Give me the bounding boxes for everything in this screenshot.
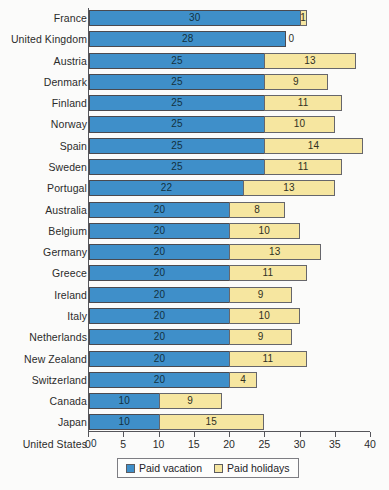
bar-stack: 209 — [89, 287, 292, 303]
bar-value-paid-vacation: 20 — [154, 290, 166, 300]
bar-segment-paid-holidays: 9 — [229, 287, 292, 303]
category-label: Belgium — [48, 225, 87, 236]
bar-segment-paid-holidays: 14 — [264, 138, 363, 154]
bar-row: Netherlands209 — [0, 329, 389, 345]
legend-swatch-paid-vacation-icon — [126, 464, 135, 473]
bar-segment-paid-holidays: 10 — [229, 223, 300, 239]
bar-row: Finland2511 — [0, 95, 389, 111]
bar-stack: 2213 — [89, 180, 335, 196]
category-label: Switzerland — [32, 374, 87, 385]
bar-segment-paid-vacation: 20 — [89, 372, 230, 388]
bar-value-paid-vacation: 25 — [171, 119, 183, 129]
bar-value-paid-holidays: 9 — [258, 332, 264, 342]
bar-segment-paid-vacation: 20 — [89, 223, 230, 239]
bar-stack: 208 — [89, 202, 285, 218]
bar-stack: 2511 — [89, 95, 342, 111]
bar-row: Ireland209 — [0, 287, 389, 303]
bar-value-paid-vacation: 20 — [154, 205, 166, 215]
bar-segment-paid-vacation: 20 — [89, 244, 230, 260]
bar-value-paid-vacation: 25 — [171, 141, 183, 151]
x-tick-label: 10 — [153, 438, 165, 450]
bar-segment-paid-vacation: 20 — [89, 351, 230, 367]
bar-segment-paid-vacation: 20 — [89, 308, 230, 324]
x-tick-mark — [300, 432, 301, 437]
bar-row: Spain2514 — [0, 138, 389, 154]
bar-value-paid-vacation: 30 — [189, 13, 201, 23]
bar-value-paid-vacation: 25 — [171, 56, 183, 66]
bar-segment-paid-holidays: 4 — [229, 372, 257, 388]
bar-value-paid-vacation: 20 — [154, 268, 166, 278]
bar-value-paid-holidays: 9 — [293, 77, 299, 87]
bar-segment-paid-vacation: 20 — [89, 287, 230, 303]
bar-value-paid-holidays: 11 — [298, 98, 309, 108]
bar-value-paid-holidays: 13 — [283, 183, 295, 193]
bar-row: Germany2013 — [0, 244, 389, 260]
bar-value-paid-vacation: 28 — [182, 34, 194, 44]
bar-value-paid-vacation: 10 — [118, 417, 130, 427]
bar-segment-paid-holidays: 11 — [229, 351, 307, 367]
legend-entry: Paid vacation — [126, 463, 202, 474]
bar-segment-paid-holidays: 11 — [264, 95, 342, 111]
bar-segment-paid-vacation: 20 — [89, 329, 230, 345]
bar-stack: 2013 — [89, 244, 321, 260]
bar-segment-paid-holidays: 8 — [229, 202, 285, 218]
category-label: Denmark — [44, 76, 87, 87]
bar-row: Portugal2213 — [0, 180, 389, 196]
bar-row: Austria2513 — [0, 53, 389, 69]
bar-row: Japan1015 — [0, 414, 389, 430]
category-label: Finland — [52, 98, 87, 109]
stacked-bar-chart: France301United Kingdom280Austria2513Den… — [0, 0, 389, 490]
category-label: Austria — [54, 55, 87, 66]
x-tick-label: 5 — [120, 438, 126, 450]
chart-legend: Paid vacationPaid holidays — [117, 458, 299, 478]
bar-value-paid-holidays: 14 — [308, 141, 320, 151]
category-label: Germany — [43, 247, 87, 258]
bar-segment-paid-vacation: 10 — [89, 393, 160, 409]
bar-row: Belgium2010 — [0, 223, 389, 239]
x-tick-mark — [123, 432, 124, 437]
bar-segment-paid-holidays: 9 — [264, 74, 327, 90]
bar-segment-paid-vacation: 28 — [89, 31, 286, 47]
bar-row: United Kingdom280 — [0, 31, 389, 47]
x-tick-label: 35 — [329, 438, 341, 450]
bar-segment-paid-holidays: 13 — [229, 244, 321, 260]
bar-row: Italy2010 — [0, 308, 389, 324]
category-label: Greece — [52, 268, 87, 279]
bar-segment-paid-holidays: 1 — [300, 10, 307, 26]
plot-area: France301United Kingdom280Austria2513Den… — [0, 0, 389, 432]
legend-label: Paid vacation — [139, 463, 202, 474]
bar-value-paid-holidays: 10 — [258, 311, 270, 321]
bar-rows: France301United Kingdom280Austria2513Den… — [0, 10, 389, 457]
bar-segment-paid-vacation: 25 — [89, 95, 265, 111]
bar-value-paid-vacation: 10 — [118, 396, 130, 406]
x-tick-label: 15 — [188, 438, 200, 450]
bar-segment-paid-holidays: 9 — [159, 393, 222, 409]
bar-segment-paid-holidays: 13 — [243, 180, 335, 196]
x-axis-ticks: 0510152025303540 — [0, 432, 389, 454]
legend-entry: Paid holidays — [214, 463, 289, 474]
bar-row: Norway2510 — [0, 116, 389, 132]
bar-value-paid-vacation: 22 — [161, 183, 173, 193]
bar-row: New Zealand2011 — [0, 351, 389, 367]
bar-value-paid-vacation: 25 — [171, 162, 183, 172]
x-tick-label: 40 — [364, 438, 376, 450]
bar-row: Canada109 — [0, 393, 389, 409]
bar-segment-paid-vacation: 25 — [89, 74, 265, 90]
bar-row: Switzerland204 — [0, 372, 389, 388]
bar-value-paid-vacation: 20 — [154, 247, 166, 257]
bar-value-paid-vacation: 20 — [154, 311, 166, 321]
category-label: Norway — [51, 119, 87, 130]
bar-value-paid-holidays: 10 — [294, 119, 306, 129]
bar-stack: 2513 — [89, 53, 356, 69]
bar-stack: 2010 — [89, 223, 300, 239]
x-tick-mark — [88, 432, 89, 437]
bar-row: Australia208 — [0, 202, 389, 218]
x-tick-mark — [229, 432, 230, 437]
category-label: Sweden — [48, 162, 87, 173]
bar-stack: 280 — [89, 31, 285, 47]
x-tick-label: 0 — [85, 438, 91, 450]
category-label: Spain — [60, 140, 87, 151]
x-tick-mark — [264, 432, 265, 437]
category-label: Portugal — [47, 183, 87, 194]
x-tick-mark — [370, 432, 371, 437]
